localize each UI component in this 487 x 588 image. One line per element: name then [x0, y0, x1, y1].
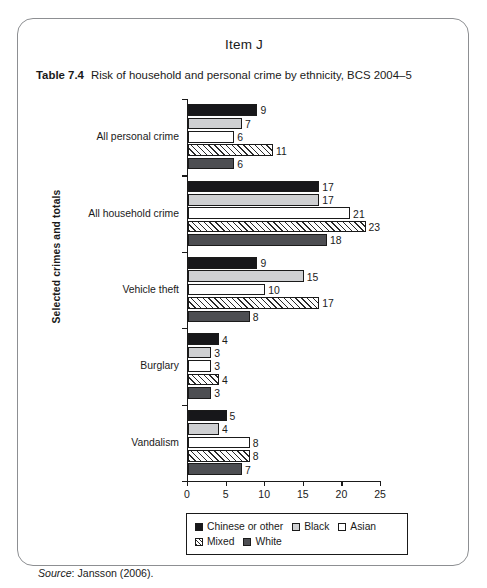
bar: [188, 360, 211, 372]
y-axis-label: Selected crimes and totals: [51, 157, 62, 357]
bar-row: 4: [188, 373, 487, 386]
x-axis-line: [187, 481, 380, 482]
bar-value-label: 23: [369, 221, 381, 232]
bar-value-label: 15: [307, 271, 319, 282]
x-tick-label: 20: [326, 488, 356, 500]
bar-row: 9: [188, 104, 487, 117]
legend-item: Asian: [338, 519, 376, 534]
bar: [188, 423, 219, 435]
bar-row: 3: [188, 386, 487, 399]
bar: [188, 297, 319, 309]
bar: [188, 181, 319, 193]
legend-item: Mixed: [195, 534, 234, 549]
bar-value-label: 7: [245, 118, 251, 129]
bar-row: 6: [188, 157, 487, 170]
bar-value-label: 3: [214, 361, 220, 372]
bar-row: 3: [188, 360, 487, 373]
legend-swatch: [292, 523, 300, 531]
bar-value-label: 10: [268, 284, 280, 295]
bar-row: 6: [188, 130, 487, 143]
x-tick-label: 10: [249, 488, 279, 500]
bar-value-label: 4: [222, 334, 228, 345]
bar-value-label: 3: [214, 388, 220, 399]
legend-label: Chinese or other: [207, 521, 283, 532]
bar: [188, 333, 219, 345]
bar-row: 7: [188, 463, 487, 476]
bar: [188, 131, 234, 143]
bar-value-label: 9: [260, 258, 266, 269]
bar-row: 17: [188, 193, 487, 206]
legend-swatch: [195, 523, 203, 531]
bar-value-label: 11: [276, 145, 287, 156]
bar-group: Vandalism54887: [188, 409, 487, 476]
bar: [188, 374, 219, 386]
bar: [188, 158, 234, 170]
bar-row: 8: [188, 436, 487, 449]
bar-group: All personal crime976116: [188, 104, 487, 171]
bar: [188, 463, 242, 475]
bar: [188, 311, 250, 323]
bar: [188, 104, 257, 116]
bar-group: All household crime1717212318: [188, 180, 487, 247]
x-tick: [187, 481, 188, 486]
category-label: Burglary: [59, 360, 179, 372]
x-tick-label: 5: [211, 488, 241, 500]
x-tick: [226, 481, 227, 486]
legend-item: White: [243, 534, 281, 549]
bar-row: 4: [188, 423, 487, 436]
bar-value-label: 9: [260, 105, 266, 116]
source-citation: : Jansson (2006).: [72, 567, 154, 579]
bar-value-label: 4: [222, 424, 228, 435]
bar-row: 11: [188, 144, 487, 157]
bar: [188, 450, 250, 462]
bar: [188, 257, 257, 269]
bar-value-label: 6: [237, 158, 243, 169]
bar: [188, 270, 304, 282]
legend-item: Black: [292, 519, 329, 534]
x-tick: [380, 481, 381, 486]
y-tick: [182, 252, 187, 253]
category-label: All personal crime: [59, 131, 179, 143]
bar-row: 17: [188, 180, 487, 193]
bar-row: 21: [188, 207, 487, 220]
bar-value-label: 7: [245, 464, 251, 475]
bar: [188, 387, 211, 399]
category-label: Vehicle theft: [59, 284, 179, 296]
bar-row: 8: [188, 449, 487, 462]
bar-row: 7: [188, 117, 487, 130]
bar-value-label: 8: [253, 311, 259, 322]
bar-value-label: 17: [322, 195, 334, 206]
bar-value-label: 21: [353, 208, 365, 219]
bar: [188, 221, 366, 233]
bar-value-label: 4: [222, 374, 228, 385]
table-caption: Table 7.4Risk of household and personal …: [36, 69, 456, 81]
chart-legend: Chinese or otherBlackAsianMixedWhite: [186, 513, 408, 555]
x-tick: [264, 481, 265, 486]
table-number: Table 7.4: [36, 69, 84, 81]
bar-value-label: 5: [230, 410, 236, 421]
figure-card: Item J Table 7.4Risk of household and pe…: [17, 18, 469, 566]
legend-swatch: [338, 523, 346, 531]
category-label: Vandalism: [59, 437, 179, 449]
bar-row: 5: [188, 409, 487, 422]
bar: [188, 194, 319, 206]
legend-label: Mixed: [207, 536, 234, 547]
bar: [188, 437, 250, 449]
bar-row: 8: [188, 310, 487, 323]
bar-row: 18: [188, 234, 487, 247]
bar: [188, 144, 273, 156]
legend-swatch: [243, 538, 251, 546]
bar: [188, 207, 350, 219]
bar: [188, 284, 265, 296]
bar-row: 23: [188, 220, 487, 233]
bar-value-label: 8: [253, 451, 259, 462]
legend-label: Asian: [350, 521, 376, 532]
bar-row: 15: [188, 270, 487, 283]
bar-value-label: 8: [253, 437, 259, 448]
legend-label: Black: [304, 521, 329, 532]
x-tick: [341, 481, 342, 486]
legend-row: Chinese or otherBlackAsian: [195, 519, 400, 534]
legend-item: Chinese or other: [195, 519, 283, 534]
x-tick: [303, 481, 304, 486]
bar-row: 10: [188, 283, 487, 296]
